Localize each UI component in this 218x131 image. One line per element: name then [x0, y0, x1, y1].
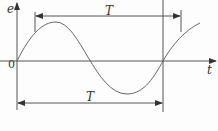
x-axis-label: t: [207, 64, 212, 76]
bottom-period-label: T: [86, 91, 94, 103]
diagram-graphic: [0, 0, 218, 131]
sine-curve: [17, 22, 200, 94]
y-axis-label: e: [7, 3, 14, 15]
origin-label: 0: [8, 59, 15, 70]
top-period-label: T: [105, 5, 113, 17]
sine-period-diagram: e t 0 T T: [0, 0, 218, 131]
